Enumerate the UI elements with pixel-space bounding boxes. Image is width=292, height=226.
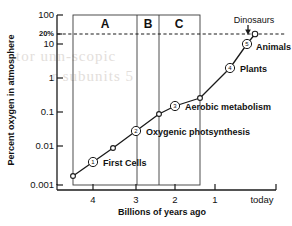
event-marker-5: 5 <box>242 39 251 48</box>
y-tick-label-0.01: 0.01 <box>36 140 55 151</box>
event-marker-2: 2 <box>131 126 140 135</box>
x-tick-label-3: 3 <box>133 194 138 205</box>
region-label-a: A <box>101 17 110 31</box>
y-axis <box>57 15 63 185</box>
event-marker-3: 3 <box>170 101 179 110</box>
data-point-today <box>252 31 258 37</box>
event-label-animals: Animals <box>256 42 291 52</box>
event-label-plants: Plants <box>240 64 267 74</box>
y-tick-label-1: 1 <box>49 72 54 83</box>
x-axis-title: Billions of years ago <box>118 207 207 217</box>
data-point-unlabeled-3 <box>198 96 203 101</box>
data-point-unlabeled-1 <box>111 146 116 151</box>
x-tick-label-2: 2 <box>172 194 177 205</box>
region-label-c: C <box>175 17 184 31</box>
x-tick-label-1: 1 <box>212 194 217 205</box>
data-point-origin <box>71 174 76 179</box>
y-tick-label-0.1: 0.1 <box>41 106 54 117</box>
region-label-b: B <box>144 17 153 31</box>
event-marker-1: 1 <box>88 157 97 166</box>
y-tick-label-10: 10 <box>43 38 54 49</box>
data-point-unlabeled-2 <box>157 112 162 117</box>
x-tick-label-today: today <box>250 194 273 205</box>
event-marker-4: 4 <box>225 63 234 72</box>
y-tick-label-100: 100 <box>38 9 54 20</box>
x-tick-label-4: 4 <box>90 194 95 205</box>
y-axis-title: Percent oxygen in atmosphere <box>6 34 16 165</box>
y-tick-label-0.001: 0.001 <box>30 179 54 190</box>
event-label-aerobic-metabolism: Aerobic metabolism <box>185 102 271 112</box>
event-label-oxygenic-photosynthesis: Oxygenic photsynthesis <box>146 127 250 137</box>
oxygen-history-chart: A B C 100 20% 10 1 0.1 0.01 0.001 Percen… <box>0 0 292 226</box>
event-label-first-cells: First Cells <box>103 158 147 168</box>
annotation-label-dinosaurs: Dinosaurs <box>234 15 275 25</box>
y-tick-label-20pct: 20% <box>39 29 54 38</box>
